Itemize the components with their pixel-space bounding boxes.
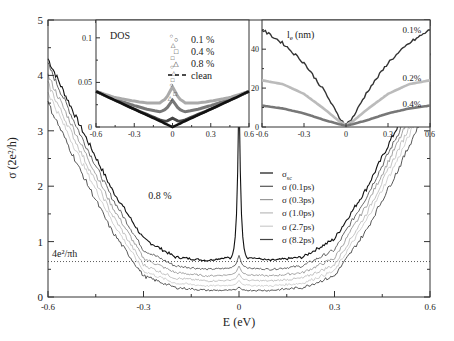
svg-text:□: □ <box>171 77 175 83</box>
le-series-label: 0.4% <box>402 99 421 109</box>
x-tick-label: 0 <box>237 302 242 312</box>
y-tick-label: 0 <box>38 291 44 303</box>
dos-title: DOS <box>110 30 130 41</box>
dos-legend-label: clean <box>191 70 212 81</box>
svg-text:□: □ <box>173 91 177 97</box>
y-tick-label: 1 <box>38 236 44 248</box>
doping-annotation: 0.8 % <box>148 190 171 201</box>
x-tick-label: -0.3 <box>136 302 151 312</box>
le-series-label: 0.1% <box>402 25 421 35</box>
le-y-tick-label: 0 <box>255 123 259 132</box>
legend-label: σ (2.7ps) <box>282 222 314 232</box>
dos-x-tick-label: 0.3 <box>206 130 216 139</box>
y-tick-label: 5 <box>38 14 44 26</box>
legend-label: σ (0.1ps) <box>282 182 314 192</box>
le-y-tick-label: 20 <box>251 84 259 93</box>
legend-label: σ (1.0ps) <box>282 208 314 218</box>
x-tick-label: 0.3 <box>329 302 341 312</box>
conductivity-chart: -0.6-0.300.30.6012345 ○□△○□△○□△-0.6-0.30… <box>0 0 454 341</box>
le-x-tick-label: 0.6 <box>425 130 435 139</box>
circle-marker-icon: ○ <box>174 36 178 44</box>
legend-label: σsc <box>282 169 292 181</box>
le-y-tick-label: 40 <box>251 45 259 54</box>
x-axis-label: E (eV) <box>223 315 255 329</box>
svg-text:○: ○ <box>169 33 173 39</box>
series-line <box>48 101 430 291</box>
le-x-tick-label: 0.3 <box>383 130 393 139</box>
inset-dos-plot: ○□△○□△○□△-0.6-0.300.30.600.050.1○0.1 %□0… <box>78 20 254 139</box>
dos-legend-label: 0.1 % <box>191 34 214 45</box>
dos-y-tick-label: 0.05 <box>78 78 92 87</box>
y-axis-label: σ (2e²/h) <box>5 137 19 179</box>
main-legend: σscσ (0.1ps)σ (0.3ps)σ (1.0ps)σ (2.7ps)σ… <box>260 169 314 246</box>
dos-x-tick-label: -0.3 <box>128 130 141 139</box>
y-tick-label: 4 <box>38 69 44 81</box>
inset-mean-free-path-plot: 0.1%0.2%0.4%-0.6-0.300.30.602040 <box>251 20 435 139</box>
dos-x-tick-label: 0.6 <box>244 130 254 139</box>
dos-y-tick-label: 0.1 <box>82 34 92 43</box>
x-tick-label: -0.6 <box>41 302 56 312</box>
dos-legend-label: 0.4 % <box>191 46 214 57</box>
svg-text:△: △ <box>168 95 173 101</box>
legend-label: σ (0.3ps) <box>282 195 314 205</box>
dos-y-tick-label: 0 <box>88 123 92 132</box>
dos-x-tick-label: 0 <box>171 130 175 139</box>
le-series-label: 0.2% <box>402 73 421 83</box>
legend-label: σ (8.2ps) <box>282 235 314 245</box>
dos-legend-label: 0.8 % <box>191 58 214 69</box>
x-tick-label: 0.6 <box>424 302 436 312</box>
reference-line-label: 4e²/πh <box>52 248 77 259</box>
le-x-tick-label: -0.3 <box>298 130 311 139</box>
le-x-tick-label: 0 <box>344 130 348 139</box>
triangle-marker-icon: △ <box>173 60 179 68</box>
y-tick-label: 3 <box>38 125 44 137</box>
y-tick-label: 2 <box>38 180 44 192</box>
